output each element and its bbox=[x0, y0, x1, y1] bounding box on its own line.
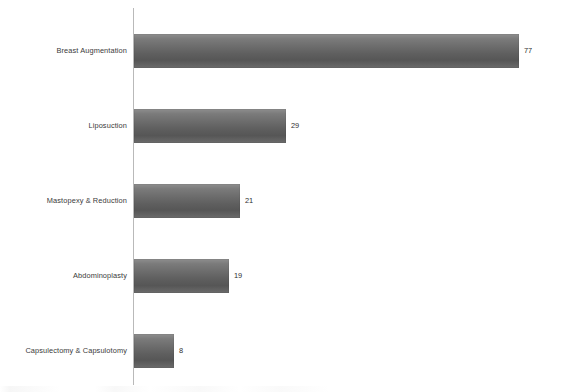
category-axis-line bbox=[133, 8, 134, 385]
category-label-mastopexy-reduction: Mastopexy & Reduction bbox=[1, 184, 133, 218]
bottom-edge-artifact bbox=[0, 386, 563, 392]
category-label-breast-augmentation: Breast Augmentation bbox=[1, 34, 133, 68]
bar-value-abdominoplasty: 19 bbox=[229, 259, 242, 293]
bar-mastopexy-reduction[interactable] bbox=[134, 184, 240, 218]
category-label-abdominoplasty: Abdominoplasty bbox=[1, 259, 133, 293]
bar-chart: Breast Augmentation 77 Liposuction 29 Ma… bbox=[0, 0, 563, 392]
bar-value-breast-augmentation: 77 bbox=[519, 34, 532, 68]
bar-breast-augmentation[interactable] bbox=[134, 34, 519, 68]
bar-liposuction[interactable] bbox=[134, 109, 286, 143]
plot-area: Breast Augmentation 77 Liposuction 29 Ma… bbox=[0, 0, 563, 392]
bar-row: Mastopexy & Reduction 21 bbox=[0, 184, 563, 218]
bar-row: Liposuction 29 bbox=[0, 109, 563, 143]
category-label-capsulectomy-capsulotomy: Capsulectomy & Capsulotomy bbox=[1, 334, 133, 368]
bar-value-capsulectomy-capsulotomy: 8 bbox=[174, 334, 183, 368]
bar-row: Breast Augmentation 77 bbox=[0, 34, 563, 68]
bar-row: Capsulectomy & Capsulotomy 8 bbox=[0, 334, 563, 368]
category-label-liposuction: Liposuction bbox=[1, 109, 133, 143]
bar-capsulectomy-capsulotomy[interactable] bbox=[134, 334, 174, 368]
bar-value-mastopexy-reduction: 21 bbox=[240, 184, 253, 218]
bar-value-liposuction: 29 bbox=[286, 109, 299, 143]
bar-row: Abdominoplasty 19 bbox=[0, 259, 563, 293]
bar-abdominoplasty[interactable] bbox=[134, 259, 229, 293]
